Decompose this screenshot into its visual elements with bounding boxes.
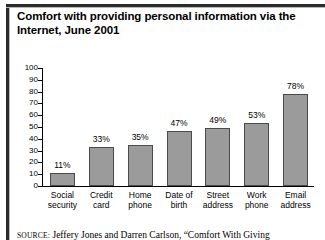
bar-value-label: 49% [209, 116, 226, 125]
category-label-line: birth [160, 200, 199, 210]
frame-left-shadow [9, 7, 10, 240]
category-label-line: address [276, 200, 315, 210]
category-label-line: phone [121, 200, 160, 210]
bar-slot: 33% [89, 68, 114, 186]
y-tick-mark [38, 68, 42, 69]
source-note: SOURCE: Jeffery Jones and Darren Carlson… [17, 230, 322, 240]
bar [283, 94, 308, 186]
bar [50, 173, 75, 186]
category-label-line: Credit [82, 190, 121, 200]
y-tick-label: 80 [29, 88, 38, 96]
bar-value-label: 33% [93, 135, 110, 144]
y-tick-mark [38, 162, 42, 163]
category-label-line: Date of [160, 190, 199, 200]
category-label-line: Home [121, 190, 160, 200]
bar-value-label: 11% [54, 161, 70, 170]
y-axis-tick-labels: 0102030405060708090100 [14, 68, 38, 186]
bar-slot: 49% [205, 68, 230, 186]
category-label: Socialsecurity [43, 190, 82, 210]
source-citation: Jeffery Jones and Darren Carlson, “Comfo… [52, 230, 269, 240]
category-label: Streetaddress [198, 190, 237, 210]
category-label-line: Work [237, 190, 276, 200]
bar [128, 145, 153, 186]
bar-slot: 47% [167, 68, 192, 186]
y-tick-label: 20 [29, 158, 38, 166]
category-label-line: phone [237, 200, 276, 210]
y-tick-mark [38, 115, 42, 116]
bar-slot: 53% [244, 68, 269, 186]
frame-top-shadow [6, 7, 325, 8]
y-tick-label: 10 [29, 170, 38, 178]
bar [205, 128, 230, 186]
category-label-line: address [198, 200, 237, 210]
bar [89, 147, 114, 186]
plot-area: 11%33%35%47%49%53%78% [42, 68, 314, 186]
y-tick-mark [38, 127, 42, 128]
category-label-line: Email [276, 190, 315, 200]
y-tick-mark [38, 80, 42, 81]
y-tick-label: 60 [29, 111, 38, 119]
y-tick-label: 90 [29, 76, 38, 84]
chart-figure: Comfort with providing personal informat… [0, 0, 325, 240]
y-tick-label: 40 [29, 135, 38, 143]
y-tick-label: 100 [25, 64, 38, 72]
category-label-line: card [82, 200, 121, 210]
y-tick-mark [38, 174, 42, 175]
category-label-line: Street [198, 190, 237, 200]
bar-value-label: 47% [170, 119, 187, 128]
category-label-line: Social [43, 190, 82, 200]
category-label-line: security [43, 200, 82, 210]
y-tick-mark [38, 186, 42, 187]
bar-value-label: 53% [248, 111, 265, 120]
chart-title: Comfort with providing personal informat… [17, 10, 317, 37]
source-label: SOURCE: [17, 231, 50, 240]
bar-value-label: 78% [287, 82, 304, 91]
y-tick-mark [38, 151, 42, 152]
bar [244, 123, 269, 186]
y-tick-mark [38, 92, 42, 93]
x-axis-line [42, 186, 314, 187]
category-label: Date ofbirth [160, 190, 199, 210]
category-label: Creditcard [82, 190, 121, 210]
bar-slot: 78% [283, 68, 308, 186]
y-tick-label: 70 [29, 99, 38, 107]
category-label: Workphone [237, 190, 276, 210]
y-tick-mark [38, 139, 42, 140]
category-label: Homephone [121, 190, 160, 210]
bar-slot: 11% [50, 68, 75, 186]
bar [167, 131, 192, 186]
bar-slot: 35% [128, 68, 153, 186]
y-tick-label: 30 [29, 147, 38, 155]
y-tick-label: 50 [29, 123, 38, 131]
category-label: Emailaddress [276, 190, 315, 210]
bar-series: 11%33%35%47%49%53%78% [43, 68, 314, 186]
y-tick-mark [38, 103, 42, 104]
bar-value-label: 35% [132, 133, 149, 142]
x-axis-category-labels: SocialsecurityCreditcardHomephoneDate of… [43, 190, 315, 214]
